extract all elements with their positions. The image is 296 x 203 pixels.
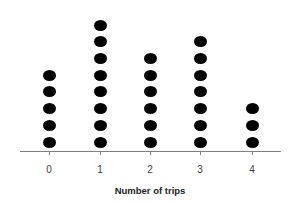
data-dot [94, 103, 107, 114]
data-dot [194, 53, 207, 64]
x-tick [100, 151, 101, 155]
data-dot [43, 103, 56, 114]
data-dot [144, 120, 157, 131]
x-tick-label: 3 [190, 164, 210, 175]
x-tick [49, 151, 50, 155]
data-dot [144, 86, 157, 97]
data-dot [194, 103, 207, 114]
data-dot [43, 86, 56, 97]
data-dot [94, 137, 107, 148]
data-dot [43, 120, 56, 131]
x-tick-label: 4 [242, 164, 262, 175]
data-dot [144, 103, 157, 114]
data-dot [246, 137, 259, 148]
data-dot [246, 103, 259, 114]
data-dot [94, 70, 107, 81]
x-tick-label: 1 [90, 164, 110, 175]
data-dot [94, 53, 107, 64]
x-tick-label: 2 [140, 164, 160, 175]
data-dot [144, 53, 157, 64]
data-dot [43, 70, 56, 81]
data-dot [144, 137, 157, 148]
data-dot [194, 36, 207, 47]
x-tick [252, 151, 253, 155]
x-tick-label: 0 [39, 164, 59, 175]
data-dot [194, 120, 207, 131]
data-dot [194, 86, 207, 97]
data-dot [94, 86, 107, 97]
data-dot [43, 137, 56, 148]
data-dot [194, 137, 207, 148]
data-dot [194, 70, 207, 81]
data-dot [246, 120, 259, 131]
x-tick [150, 151, 151, 155]
data-dot [94, 20, 107, 31]
data-dot [94, 120, 107, 131]
dot-plot: 01234 Number of trips [0, 0, 296, 203]
x-tick [200, 151, 201, 155]
data-dot [94, 36, 107, 47]
data-dot [144, 70, 157, 81]
x-axis-title: Number of trips [0, 185, 296, 196]
